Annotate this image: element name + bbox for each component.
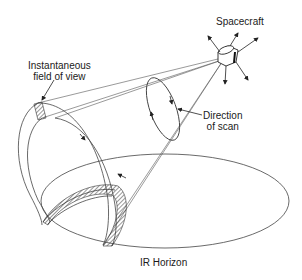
scan-direction-label: Direction of scan	[203, 110, 242, 132]
ir-horizon-label: IR Horizon	[140, 257, 187, 268]
scan-band	[18, 103, 116, 246]
scan-label-line2: of scan	[203, 121, 242, 132]
view-cone-lines	[38, 58, 222, 245]
ifov-label: Instantaneous field of view	[28, 60, 91, 82]
scan-geometry-diagram	[0, 0, 302, 280]
ir-horizon-ellipse	[41, 154, 289, 248]
ifov-label-line1: Instantaneous	[28, 60, 91, 71]
ifov-label-line2: field of view	[28, 71, 91, 82]
spacecraft-icon	[208, 33, 258, 84]
spacecraft-label: Spacecraft	[216, 16, 264, 27]
scan-label-line1: Direction	[203, 110, 242, 121]
ifov-hatched-patch	[34, 102, 46, 120]
